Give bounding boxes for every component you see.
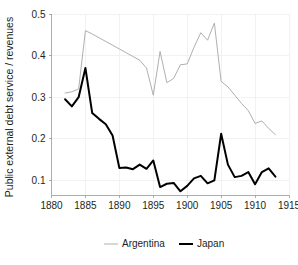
x-axis-tick-label: 1895 — [142, 200, 165, 211]
legend-label-japan: Japan — [197, 238, 224, 249]
data-series-group — [65, 23, 275, 191]
axes — [52, 14, 290, 195]
y-axis-tick-label: 0.5 — [32, 9, 46, 20]
x-axis-tick-label: 1905 — [210, 200, 233, 211]
x-axis-tick-label: 1910 — [244, 200, 267, 211]
y-axis-title: Public external debt service / revenues — [3, 17, 15, 197]
y-axis-tick-label: 0.1 — [32, 175, 46, 186]
y-axis-tick-labels: 0.10.20.30.40.5 — [32, 9, 46, 186]
legend-label-argentina: Argentina — [122, 238, 165, 249]
x-axis-tick-labels: 18801885189018951900190519101915 — [40, 200, 298, 211]
y-axis-tick-label: 0.2 — [32, 133, 46, 144]
chart-legend: ArgentinaJapan — [104, 238, 224, 249]
chart-figure: 0.10.20.30.40.5 188018851890189519001905… — [0, 0, 298, 265]
x-axis-tick-label: 1915 — [278, 200, 298, 211]
y-axis-tick-label: 0.4 — [32, 50, 46, 61]
gridlines — [52, 14, 290, 195]
x-axis-tick-label: 1880 — [40, 200, 63, 211]
y-axis-tick-label: 0.3 — [32, 92, 46, 103]
x-axis-tick-label: 1885 — [74, 200, 97, 211]
x-axis-tick-label: 1900 — [176, 200, 199, 211]
series-line-japan — [65, 68, 275, 191]
x-axis-tick-label: 1890 — [108, 200, 131, 211]
line-chart: 0.10.20.30.40.5 188018851890189519001905… — [0, 0, 298, 265]
